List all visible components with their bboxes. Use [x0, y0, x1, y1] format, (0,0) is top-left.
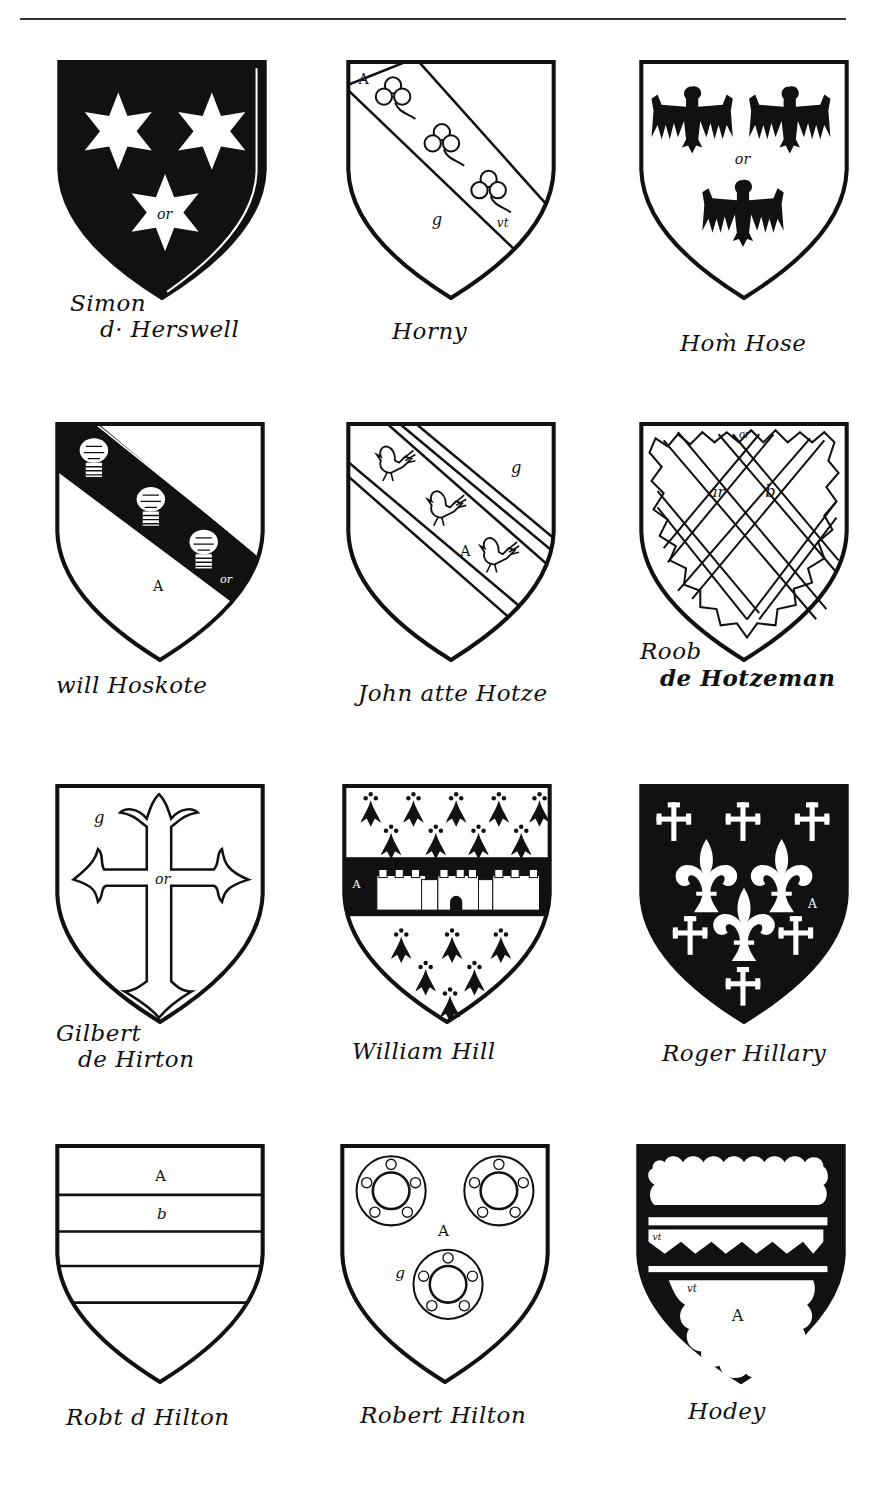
- label-roger-de-hotzeman: Roob de Hotzeman: [640, 638, 836, 691]
- svg-text:or: or: [157, 206, 174, 222]
- svg-text:A: A: [154, 1167, 167, 1185]
- svg-text:b: b: [765, 482, 775, 501]
- shield-roger-hillary: A: [637, 782, 851, 1026]
- label-john-atte-hotze: John atte Hotze: [358, 680, 548, 706]
- svg-text:g: g: [432, 210, 442, 229]
- shield-simon-de-herswell: or: [55, 58, 269, 302]
- svg-text:A: A: [731, 1306, 744, 1325]
- shield-william-hill: A: [340, 782, 554, 1026]
- shield-hom-hose: or: [637, 58, 851, 302]
- svg-text:vt: vt: [687, 1283, 698, 1294]
- label-simon-de-herswell: Simon d· Herswell: [70, 290, 239, 342]
- label-hodey: Hodey: [688, 1398, 766, 1424]
- label-robert-de-hilton: Robt d Hilton: [66, 1404, 230, 1430]
- top-rule: [20, 18, 846, 20]
- svg-text:ar: ar: [708, 483, 726, 501]
- label-robert-hilton: Robert Hilton: [360, 1402, 526, 1428]
- svg-text:g: g: [94, 808, 104, 827]
- shield-robert-hilton: A g: [338, 1142, 552, 1386]
- svg-text:vt: vt: [653, 1232, 662, 1242]
- svg-text:A: A: [807, 897, 817, 911]
- label-horny: Horny: [392, 318, 467, 344]
- label-william-hill: William Hill: [352, 1038, 496, 1064]
- shield-gilbert-de-hirton: g or: [53, 782, 267, 1026]
- svg-text:or: or: [735, 151, 752, 167]
- svg-text:A: A: [351, 878, 361, 891]
- shield-will-hoskote: A or: [53, 420, 267, 664]
- svg-text:or: or: [220, 573, 233, 586]
- svg-text:g: g: [511, 458, 521, 477]
- svg-text:g: g: [395, 1264, 405, 1282]
- svg-text:vt: vt: [497, 216, 509, 230]
- svg-text:A: A: [152, 578, 164, 594]
- shield-hodey: vt vt A: [634, 1142, 848, 1386]
- svg-text:A: A: [357, 71, 369, 87]
- svg-text:or: or: [739, 429, 751, 440]
- label-will-hoskote: will Hoskote: [56, 672, 207, 698]
- label-gilbert-de-hirton: Gilbert de Hirton: [56, 1020, 194, 1072]
- shield-robert-de-hilton: A b: [53, 1142, 267, 1386]
- label-hom-hose: Hom̀ Hose: [680, 330, 806, 356]
- shield-roger-de-hotzeman: or ar b: [637, 420, 851, 664]
- svg-text:A: A: [459, 543, 471, 559]
- svg-text:b: b: [157, 1205, 167, 1223]
- shield-john-atte-hotze: g A: [344, 420, 558, 664]
- label-roger-hillary: Roger Hillary: [662, 1040, 826, 1066]
- svg-text:A: A: [437, 1222, 450, 1240]
- shield-horny: A g vt: [344, 58, 558, 302]
- svg-text:or: or: [155, 871, 172, 887]
